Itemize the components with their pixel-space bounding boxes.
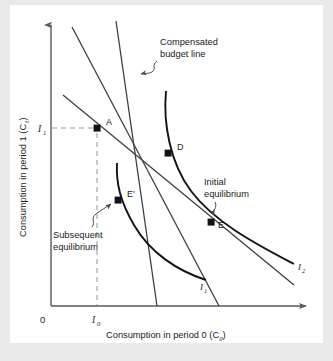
compensated-budget-line-leader	[141, 61, 157, 74]
point-label-D: D	[177, 142, 184, 152]
x-axis-title-main: Consumption in period 0 (C	[106, 330, 219, 340]
curve-label-I2-sub: 2	[302, 267, 306, 274]
point-label-A: A	[106, 117, 112, 127]
indifference-curve-I2	[165, 91, 294, 264]
figure-card: A D E' E Compensated budget line Initial…	[10, 5, 323, 343]
point-E-marker	[208, 219, 215, 226]
indifference-curve-I1	[117, 163, 206, 280]
subsequent-equilibrium-leader	[92, 204, 111, 227]
initial-equilibrium-label-line2: equilibrium	[204, 189, 249, 199]
initial-equilibrium-leader	[214, 202, 216, 215]
compensated-budget-line-label-line1: Compensated	[160, 37, 218, 47]
point-label-Eprime: E'	[127, 189, 135, 199]
compensated-budget-line	[116, 21, 157, 306]
point-D-marker	[165, 150, 172, 157]
x-tick-label-I0: I	[91, 315, 96, 325]
y-tick-label-I1-sub: 1	[43, 129, 46, 136]
point-label-E: E	[218, 220, 224, 230]
x-axis-title-close: )	[222, 330, 225, 340]
compensated-budget-line-label-line2: budget line	[160, 49, 206, 59]
initial-budget-line	[63, 95, 294, 285]
y-tick-label-I1: I	[37, 124, 42, 134]
intertemporal-consumption-chart: A D E' E Compensated budget line Initial…	[10, 5, 323, 343]
subsequent-equilibrium-label-line2: equilibrium	[53, 242, 98, 252]
y-axis-title-close: )	[18, 117, 28, 120]
y-axis-title-main: Consumption in period 1 (C	[18, 124, 28, 237]
y-axis-title: Consumption in period 1 (C1)	[18, 117, 30, 237]
origin-label: 0	[40, 314, 45, 325]
subsequent-equilibrium-label-line1: Subsequent	[53, 230, 103, 240]
new-budget-line	[72, 27, 219, 306]
point-A-marker	[94, 125, 101, 132]
x-axis-title: Consumption in period 0 (C0)	[106, 330, 226, 342]
x-tick-label-I0-sub: 0	[97, 320, 101, 327]
figure-page: A D E' E Compensated budget line Initial…	[0, 0, 333, 361]
point-Eprime-marker	[115, 197, 122, 204]
curve-label-I1-sub: 1	[204, 287, 207, 294]
initial-equilibrium-label-line1: Initial	[204, 177, 226, 187]
